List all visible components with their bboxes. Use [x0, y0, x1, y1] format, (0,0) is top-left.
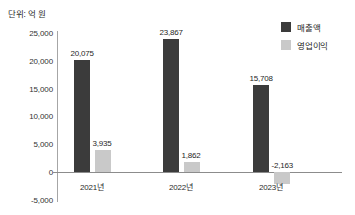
bar-value-label-operating-profit: -2,163 — [272, 161, 293, 170]
bar-value-label-operating-profit: 3,935 — [93, 139, 112, 148]
legend-swatch-icon — [281, 40, 291, 50]
bar-value-label-revenue: 20,075 — [71, 49, 94, 58]
legend: 매출액영업이익 — [281, 19, 328, 55]
bar-chart: 단위: 억 원 25,00020,00015,00010,0005,0000-5… — [0, 0, 355, 215]
legend-swatch-icon — [281, 22, 291, 32]
bar-revenue — [163, 39, 179, 172]
bar-revenue — [74, 60, 90, 172]
legend-item-revenue[interactable]: 매출액 — [281, 19, 328, 34]
bar-revenue — [253, 85, 269, 172]
x-axis-category-label: 2021년 — [80, 181, 104, 192]
legend-item-profit[interactable]: 영업이익 — [281, 37, 328, 52]
legend-item-label: 매출액 — [297, 21, 320, 33]
legend-item-label: 영업이익 — [297, 39, 328, 51]
bar-value-label-revenue: 15,708 — [250, 74, 273, 83]
bar-value-label-operating-profit: 1,862 — [182, 151, 201, 160]
bar-operating-profit — [184, 162, 200, 172]
x-axis-category-label: 2023년 — [259, 181, 283, 192]
x-axis-category-label: 2022년 — [169, 181, 193, 192]
bar-value-label-revenue: 23,867 — [160, 28, 183, 37]
bar-operating-profit — [95, 150, 111, 172]
